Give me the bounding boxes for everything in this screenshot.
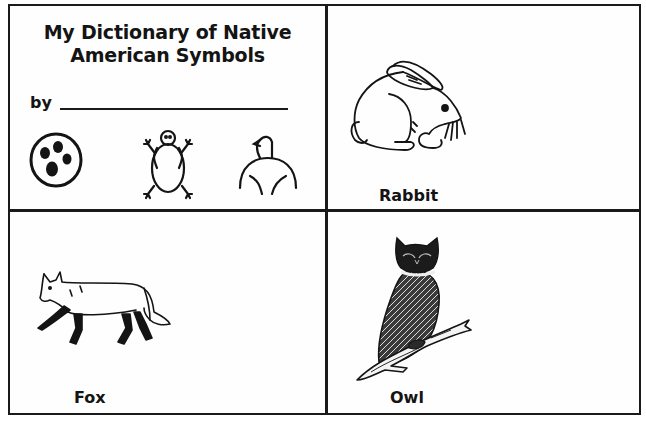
title-line-1: My Dictionary of Native (10, 21, 325, 44)
turtle-symbol-icon (140, 128, 196, 200)
by-label: by (30, 94, 52, 112)
fox-illustration-icon (36, 272, 176, 352)
fox-label: Fox (74, 389, 106, 407)
rabbit-label: Rabbit (379, 187, 438, 205)
owl-illustration-icon (351, 234, 481, 384)
cover-panel: My Dictionary of Native American Symbols… (10, 6, 325, 209)
fox-card: Fox (10, 212, 325, 415)
eagle-symbol-icon (238, 132, 298, 196)
author-name-field[interactable] (60, 108, 288, 110)
author-row: by (30, 94, 288, 112)
owl-label: Owl (390, 389, 424, 407)
rabbit-card: Rabbit (327, 6, 640, 209)
bear-track-symbol-icon (28, 132, 84, 188)
owl-card: Owl (327, 212, 640, 415)
page-title: My Dictionary of Native American Symbols (10, 21, 325, 67)
rabbit-illustration-icon (345, 48, 485, 158)
title-line-2: American Symbols (10, 44, 325, 67)
dictionary-sheet: My Dictionary of Native American Symbols… (8, 4, 641, 415)
